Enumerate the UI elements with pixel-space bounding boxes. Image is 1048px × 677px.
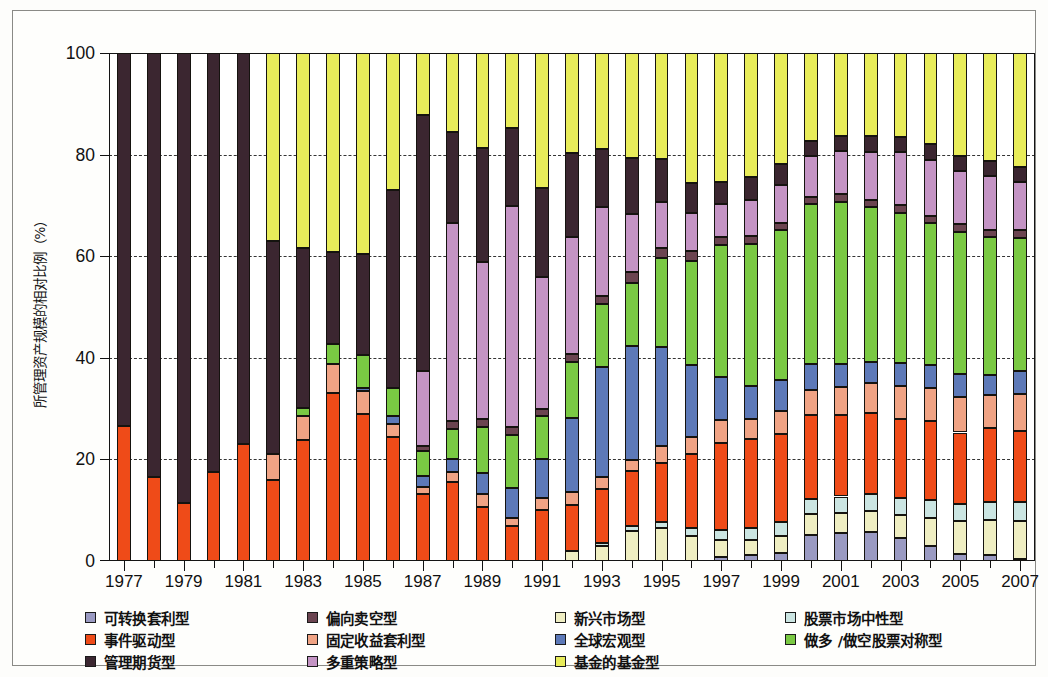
y-tick-label: 60 [76,246,95,267]
y-tick-label: 80 [76,144,95,165]
bar-segment [774,553,788,561]
stacked-bar [714,53,728,561]
legend-item-multi-strategy[interactable]: 多重策略型 [307,651,397,672]
legend-item-convertible-arbitrage[interactable]: 可转换套利型 [85,607,189,628]
bar-segment [804,390,818,415]
legend-item-fund-of-funds[interactable]: 基金的基金型 [555,651,659,672]
stacked-bar [266,53,280,561]
legend-swatch-icon [85,612,96,623]
x-tick-mark [871,561,872,568]
legend-item-emerging-markets[interactable]: 新兴市场型 [555,607,645,628]
bar-segment [924,53,938,144]
bar-segment [804,514,818,534]
bar-segment [774,434,788,523]
bar-segment [744,439,758,528]
bar-segment [744,53,758,177]
bar-segment [565,354,579,362]
bar-segment [685,213,699,251]
bar-segment [804,204,818,364]
x-tick-mark [363,561,364,571]
legend-item-fixed-income-arbitrage[interactable]: 固定收益套利型 [307,629,425,650]
bar-segment [266,480,280,561]
legend-item-event-driven[interactable]: 事件驱动型 [85,629,175,650]
stacked-bar [476,53,490,561]
legend-item-long-short-equity[interactable]: 做多 /做空股票对称型 [785,629,943,650]
legend-item-global-macro[interactable]: 全球宏观型 [555,629,645,650]
stacked-bar [505,53,519,561]
bar-segment [446,53,460,132]
stacked-bar [834,53,848,561]
x-tick-label: 1997 [702,572,740,592]
x-tick-mark [214,561,215,568]
bar-segment [953,232,967,374]
bar-segment [117,53,131,426]
bar-segment [894,515,908,538]
bar-segment [296,53,310,248]
plot-area [109,53,1035,561]
legend-item-equity-market-neutral[interactable]: 股票市场中性型 [785,607,903,628]
stacked-bar [804,53,818,561]
x-tick-mark [333,561,334,568]
x-tick-mark [841,561,842,571]
x-tick-mark [691,561,692,568]
bar-segment [953,504,967,522]
bar-segment [744,236,758,244]
legend-label: 基金的基金型 [574,651,659,672]
x-tick-mark [572,561,573,568]
bar-segment [774,223,788,231]
x-tick-mark [512,561,513,568]
bar-segment [446,472,460,482]
y-tick-mark [100,155,109,156]
bar-segment [924,421,938,500]
bar-segment [804,535,818,561]
bar-segment [505,488,519,518]
legend-swatch-icon [307,656,318,667]
stacked-bar [535,53,549,561]
bar-segment [983,395,997,428]
bar-segment [804,499,818,514]
stacked-bar [953,53,967,561]
legend-label: 偏向卖空型 [326,607,397,628]
stacked-bar [685,53,699,561]
x-tick-label: 1991 [523,572,561,592]
bar-segment [625,471,639,527]
legend-swatch-icon [785,634,796,645]
legend-label: 股票市场中性型 [804,607,903,628]
stacked-bar [595,53,609,561]
chart-legend: 可转换套利型事件驱动型管理期货型偏向卖空型固定收益套利型多重策略型新兴市场型全球… [85,607,1037,671]
bar-segment [714,540,728,558]
x-tick-mark [930,561,931,568]
bar-segment [983,520,997,556]
bar-segment [655,528,669,561]
legend-swatch-icon [85,634,96,645]
bar-segment [1013,238,1027,371]
bar-segment [505,526,519,561]
bar-segment [804,141,818,156]
bar-segment [864,362,878,382]
bar-segment [386,437,400,561]
bar-segment [924,160,938,216]
bar-segment [953,521,967,554]
bar-segment [924,365,938,388]
bar-segment [595,367,609,476]
bar-segment [774,522,788,535]
bar-segment [924,223,938,365]
y-tick-label: 100 [66,43,95,64]
x-tick-label: 1993 [583,572,621,592]
x-tick-mark [781,561,782,571]
legend-item-managed-futures[interactable]: 管理期货型 [85,651,175,672]
bar-segment [714,245,728,377]
bar-segment [655,248,669,258]
bar-segment [595,304,609,368]
bar-segment [565,153,579,237]
bar-segment [625,283,639,347]
stacked-bar [924,53,938,561]
x-tick-mark [721,561,722,571]
x-tick-mark [542,561,543,571]
bar-segment [983,176,997,229]
bar-segment [655,446,669,464]
bar-segment [655,258,669,347]
bar-segment [685,53,699,183]
legend-item-dedicated-short[interactable]: 偏向卖空型 [307,607,397,628]
bar-segment [894,213,908,363]
